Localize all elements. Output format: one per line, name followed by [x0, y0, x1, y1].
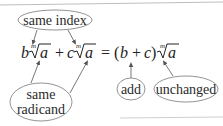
equation: b m a + c m a = ( b + c ) m a	[21, 42, 179, 62]
radicand-a-2: a	[85, 44, 93, 61]
index-m-2: m	[76, 42, 81, 50]
plus-sign-2: +	[132, 44, 141, 61]
index-m-3: m	[160, 42, 165, 50]
top-rule	[0, 2, 223, 5]
radicand-a-1: a	[40, 44, 48, 61]
same-index-label: same index	[23, 13, 86, 28]
bottom-rule	[120, 117, 223, 118]
plus-sign-1: +	[55, 44, 64, 61]
equals-sign: =	[101, 44, 110, 61]
coefficient-b: b	[21, 44, 29, 61]
close-paren: )	[151, 44, 156, 62]
unchanged-callout: unchanged	[154, 62, 218, 102]
same-radicand-label-line2: radicand	[17, 102, 65, 117]
same-radicand-callout: same radicand	[10, 62, 87, 121]
open-paren: (	[114, 44, 119, 62]
same-index-callout: same index	[18, 10, 92, 43]
same-radicand-label-line1: same	[27, 87, 56, 102]
index-m-1: m	[31, 42, 36, 50]
coefficient-b-sum: b	[120, 44, 128, 61]
radicand-a-3: a	[168, 44, 176, 61]
arrow-to-second-index	[68, 30, 75, 43]
like-radicals-diagram: same index b m a + c m a = ( b + c ) m a…	[0, 0, 223, 126]
arrow-to-second-radicand	[70, 62, 87, 93]
arrow-to-radical	[164, 62, 173, 76]
add-callout: add	[117, 64, 145, 100]
add-label: add	[121, 82, 141, 97]
arrow-to-first-radicand	[31, 62, 39, 83]
unchanged-label: unchanged	[156, 82, 217, 97]
coefficient-c: c	[67, 44, 74, 61]
